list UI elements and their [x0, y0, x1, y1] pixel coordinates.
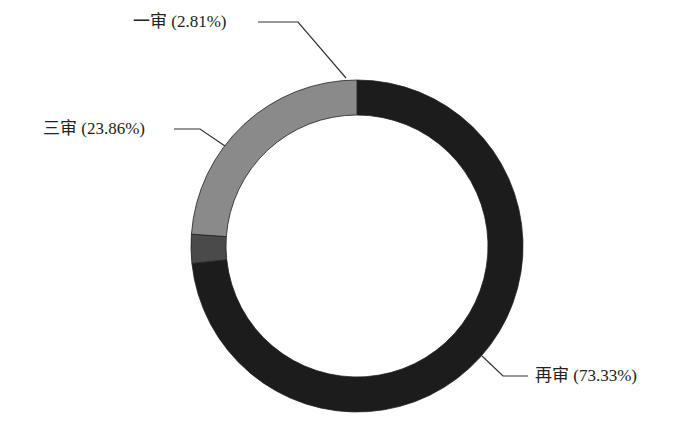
leader-line-zaishen: [482, 356, 528, 376]
donut-slices: [191, 80, 523, 412]
donut-chart: [0, 0, 699, 429]
leader-line-sanshen: [174, 129, 225, 146]
label-sanshen: 三审 (23.86%): [43, 120, 145, 137]
label-yishen: 一审 (2.81%): [133, 13, 226, 30]
leader-line-yishen: [258, 22, 346, 78]
label-zaishen: 再审 (73.33%): [535, 367, 637, 384]
donut-slice-1: [191, 234, 227, 263]
donut-slice-2: [191, 80, 357, 237]
